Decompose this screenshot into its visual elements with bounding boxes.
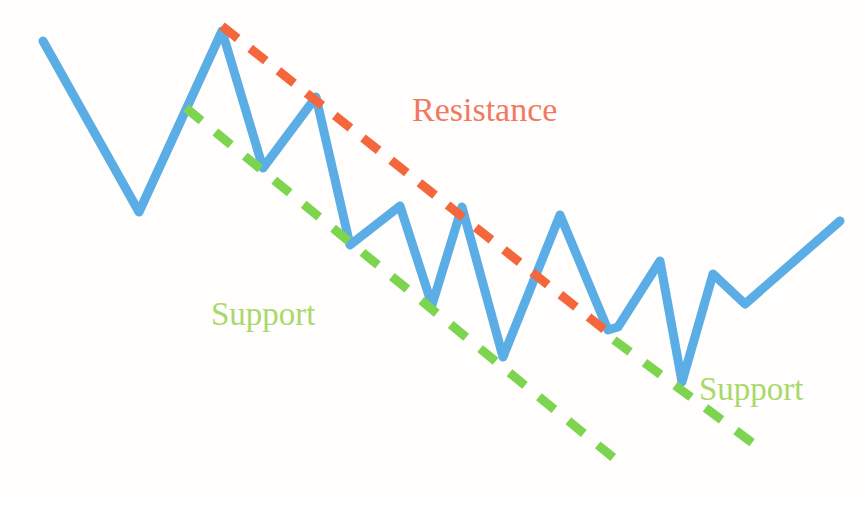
support-label-right: Support	[699, 373, 804, 406]
price-chart: Resistance Support Support	[0, 0, 862, 506]
support-trendline-left	[186, 108, 626, 468]
resistance-label: Resistance	[412, 93, 557, 127]
chart-canvas	[0, 0, 862, 506]
support-label-left: Support	[211, 298, 316, 331]
price-line	[43, 31, 840, 382]
